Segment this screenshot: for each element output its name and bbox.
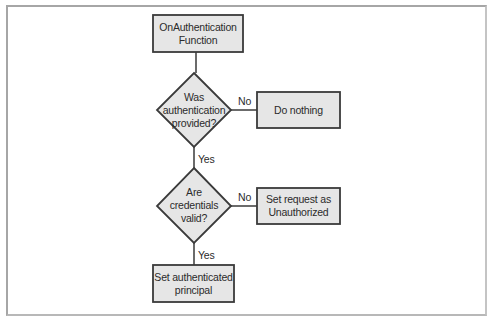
edge-label-decision1-yes: Yes — [198, 153, 215, 165]
node-decision1-line1: Was — [163, 91, 226, 104]
node-decision1: Was authentication provided? — [157, 73, 231, 147]
node-set-principal: Set authenticated principal — [153, 265, 234, 302]
node-decision1-line2: authentication — [163, 104, 226, 117]
node-set-principal-line1: Set authenticated — [154, 271, 232, 284]
node-decision2-line1: Are — [170, 186, 219, 199]
node-unauthorized: Set request as Unauthorized — [257, 188, 340, 224]
node-do-nothing: Do nothing — [257, 92, 340, 128]
flowchart-canvas — [0, 0, 491, 321]
edge-label-decision1-no: No — [238, 95, 251, 107]
node-decision2-line3: valid? — [170, 212, 219, 225]
node-unauthorized-line2: Unauthorized — [266, 206, 331, 219]
node-do-nothing-line1: Do nothing — [274, 104, 323, 117]
node-start-line1: OnAuthentication — [159, 21, 236, 34]
node-start-line2: Function — [159, 34, 236, 47]
edge-label-decision2-no: No — [238, 191, 251, 203]
node-unauthorized-line1: Set request as — [266, 193, 331, 206]
node-decision1-line3: provided? — [163, 117, 226, 130]
node-start: OnAuthentication Function — [153, 15, 243, 52]
edge-label-decision2-yes: Yes — [198, 249, 215, 261]
node-decision2: Are credentials valid? — [157, 168, 231, 243]
node-set-principal-line2: principal — [154, 284, 232, 297]
node-decision2-line2: credentials — [170, 199, 219, 212]
